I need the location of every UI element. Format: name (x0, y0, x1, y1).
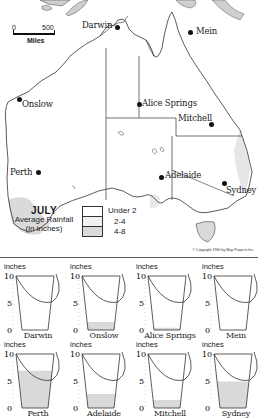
bucket-darwin: inches1050Darwin (2, 262, 66, 342)
bucket-city-label: Perth (10, 409, 66, 418)
bucket-icon: 1050 (134, 346, 198, 412)
bucket-mein: inches1050Mein (200, 262, 258, 342)
tick-5: 5 (205, 299, 210, 308)
city-label-mein: Mein (196, 26, 217, 36)
bucket-city-label: Adelaide (76, 409, 132, 418)
water-level (217, 382, 249, 408)
scale-bar (13, 33, 55, 35)
bucket-icon: 1050 (2, 346, 66, 412)
bucket-icon: 1050 (200, 346, 258, 412)
bucket-city-label: Mitchell (142, 409, 198, 418)
legend-title: JULY Average Rainfall (in inches) (12, 206, 76, 233)
city-label-onslow: Onslow (22, 99, 53, 109)
bucket-city-label: Darwin (10, 331, 66, 340)
bucket-icon: 1050 (68, 268, 132, 334)
tick-5: 5 (139, 377, 144, 386)
city-marker-darwin (115, 25, 120, 30)
city-label-mitchell: Mitchell (178, 113, 212, 123)
bucket-icon: 1050 (68, 346, 132, 412)
city-marker-mein (188, 30, 193, 35)
legend-month: JULY (12, 206, 76, 215)
scale-unit-label: Miles (27, 37, 45, 44)
tick-5: 5 (73, 377, 78, 386)
tick-10: 10 (4, 272, 14, 281)
bucket-icon: 1050 (200, 268, 258, 334)
tick-10: 10 (70, 272, 80, 281)
tick-10: 10 (136, 350, 146, 359)
tick-10: 10 (70, 350, 80, 359)
map-bottom-border (0, 257, 258, 258)
bucket-city-label: Alice Springs (142, 331, 198, 340)
bucket-alice-springs: inches1050Alice Springs (134, 262, 198, 342)
australia-rainfall-map: 0 500 Miles Darwin Mein Onslow Alice Spr… (0, 0, 258, 258)
bucket-city-label: Mein (208, 331, 258, 340)
bucket-icon: 1050 (2, 268, 66, 334)
city-label-adelaide: Adelaide (165, 170, 201, 180)
bucket-city-label: Onslow (76, 331, 132, 340)
copyright-notice: © Copyright 1960 by Map Projects Inc. (192, 248, 254, 252)
bucket-mitchell: inches1050Mitchell (134, 340, 198, 418)
city-label-sydney: Sydney (226, 185, 256, 195)
water-level (18, 371, 52, 408)
tick-10: 10 (136, 272, 146, 281)
bucket-icon: 1050 (134, 268, 198, 334)
tick-5: 5 (139, 299, 144, 308)
bucket-city-label: Sydney (208, 409, 258, 418)
legend-unit-note: (in inches) (12, 224, 76, 233)
city-marker-perth (36, 170, 41, 175)
water-level (153, 400, 181, 408)
bucket-onslow: inches1050Onslow (68, 262, 132, 342)
tick-10: 10 (202, 272, 212, 281)
legend-label-2-4: 2-4 (114, 217, 126, 226)
legend-swatch-4-8 (82, 226, 103, 237)
tick-5: 5 (73, 299, 78, 308)
city-label-darwin: Darwin (82, 20, 112, 30)
tick-10: 10 (202, 350, 212, 359)
legend-label-under-2: Under 2 (108, 206, 136, 215)
water-level (87, 322, 115, 330)
tick-5: 5 (205, 377, 210, 386)
bucket-sydney: inches1050Sydney (200, 340, 258, 418)
bucket-perth: inches1050Perth (2, 340, 66, 418)
tick-5: 5 (7, 377, 12, 386)
bucket-adelaide: inches1050Adelaide (68, 340, 132, 418)
scale-end-label: 500 (42, 24, 54, 31)
legend-label-4-8: 4-8 (114, 227, 126, 236)
tick-10: 10 (4, 350, 14, 359)
city-label-perth: Perth (10, 167, 32, 177)
city-label-alice-springs: Alice Springs (142, 98, 197, 108)
legend-subtitle: Average Rainfall (12, 215, 76, 224)
water-level (86, 394, 115, 408)
city-marker-adelaide (159, 175, 164, 180)
tick-5: 5 (7, 299, 12, 308)
